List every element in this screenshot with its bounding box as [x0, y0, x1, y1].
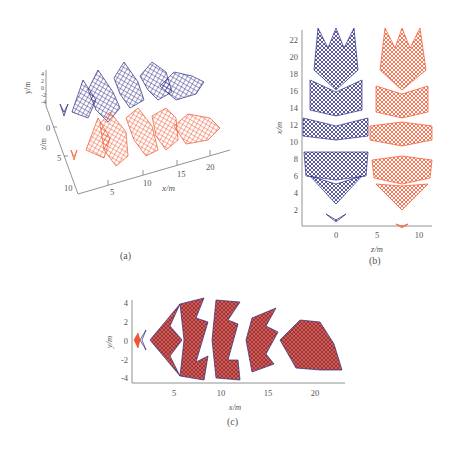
svg-text:y/m: y/m — [23, 81, 32, 94]
svg-text:10: 10 — [290, 137, 299, 147]
svg-text:-4: -4 — [121, 373, 129, 383]
svg-text:-2: -2 — [41, 92, 46, 98]
svg-text:z/m: z/m — [370, 244, 383, 254]
svg-text:4: 4 — [124, 298, 129, 308]
svg-text:0: 0 — [46, 123, 50, 133]
svg-text:-2: -2 — [121, 355, 128, 365]
svg-text:0: 0 — [41, 85, 44, 91]
blue-school-top — [303, 28, 368, 222]
caption-b: (b) — [369, 255, 381, 266]
svg-text:15: 15 — [177, 169, 186, 179]
svg-text:5: 5 — [375, 230, 379, 240]
panel-a-plot: 5 10 15 20 0 5 10 4 2 0 -2 -4 x/m y/m z/… — [0, 0, 240, 240]
svg-text:10: 10 — [415, 230, 424, 240]
caption-c: (c) — [227, 416, 238, 427]
svg-text:x/m: x/m — [274, 122, 284, 135]
axis-c-yticks: 4 2 0 -2 -4 — [121, 298, 129, 383]
svg-text:x/m: x/m — [228, 402, 241, 412]
svg-text:4: 4 — [41, 71, 44, 77]
axis-b-yticks: 2 4 6 8 10 12 14 16 18 20 22 — [290, 35, 299, 215]
panel-c: 4 2 0 -2 -4 5 10 15 20 x/m y/m (c) — [100, 290, 360, 460]
svg-text:20: 20 — [290, 52, 299, 62]
panel-c-plot: 4 2 0 -2 -4 5 10 15 20 x/m y/m — [100, 290, 360, 460]
svg-text:5: 5 — [172, 388, 176, 398]
svg-text:2: 2 — [124, 317, 128, 327]
svg-text:18: 18 — [290, 69, 299, 79]
overlaid-schools-side — [134, 298, 342, 380]
svg-text:8: 8 — [294, 154, 298, 164]
svg-text:0: 0 — [334, 230, 338, 240]
svg-text:14: 14 — [290, 103, 299, 113]
svg-text:12: 12 — [290, 120, 299, 130]
svg-text:22: 22 — [290, 35, 299, 45]
svg-text:15: 15 — [264, 388, 273, 398]
svg-text:5: 5 — [110, 187, 114, 197]
svg-text:16: 16 — [290, 86, 299, 96]
svg-text:z/m: z/m — [39, 137, 48, 150]
svg-text:y/m: y/m — [104, 336, 114, 349]
red-school-3d — [71, 108, 220, 166]
svg-text:x/m: x/m — [161, 183, 175, 193]
panel-a: 5 10 15 20 0 5 10 4 2 0 -2 -4 x/m y/m z/… — [0, 0, 240, 240]
svg-text:4: 4 — [294, 188, 299, 198]
panel-b: 2 4 6 8 10 12 14 16 18 20 22 0 5 10 z/m … — [240, 0, 456, 290]
svg-text:10: 10 — [64, 183, 73, 193]
svg-text:5: 5 — [57, 153, 61, 163]
red-school-top — [370, 28, 432, 228]
svg-text:20: 20 — [206, 162, 215, 172]
svg-text:2: 2 — [41, 78, 44, 84]
svg-text:0: 0 — [124, 336, 128, 346]
svg-text:20: 20 — [311, 388, 320, 398]
panel-b-plot: 2 4 6 8 10 12 14 16 18 20 22 0 5 10 z/m … — [240, 0, 456, 290]
svg-text:-4: -4 — [41, 99, 46, 105]
svg-text:6: 6 — [294, 171, 298, 181]
svg-text:10: 10 — [217, 388, 226, 398]
svg-text:10: 10 — [143, 178, 152, 188]
svg-text:2: 2 — [294, 205, 298, 215]
caption-a: (a) — [120, 250, 131, 261]
